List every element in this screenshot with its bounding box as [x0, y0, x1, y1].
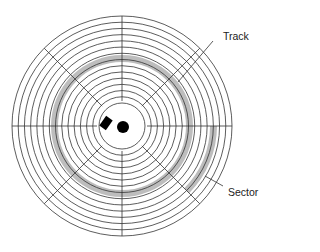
sector-divider — [142, 48, 200, 106]
sector-divider — [44, 146, 102, 204]
spindle-key-icon — [99, 116, 112, 130]
track-label: Track — [223, 30, 249, 42]
track-leader-line — [178, 41, 213, 82]
sector-label: Sector — [228, 186, 258, 198]
sector-divider — [142, 146, 200, 204]
spindle-hole-icon — [117, 121, 129, 133]
spindle — [99, 116, 129, 133]
sector-divider — [44, 48, 102, 106]
